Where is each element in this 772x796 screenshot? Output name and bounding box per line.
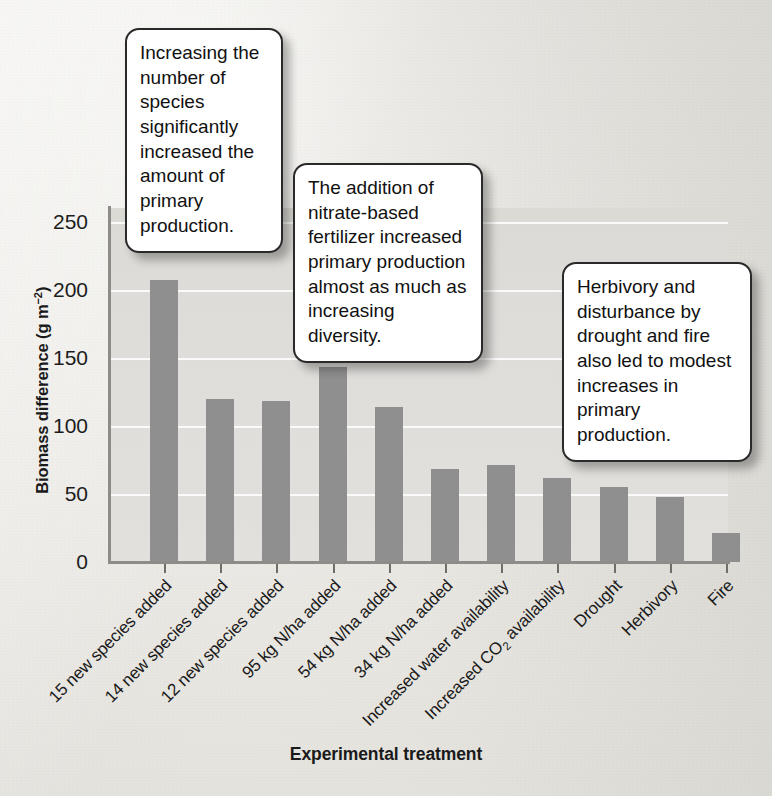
x-tick-label: Herbivory	[618, 576, 682, 640]
y-axis-title-paren: )	[33, 287, 51, 292]
x-tick-label: 95 kg N/ha added	[238, 576, 345, 683]
x-tick-mark	[333, 564, 335, 573]
bar	[656, 497, 684, 562]
x-tick-mark	[726, 564, 728, 573]
y-tick-label: 0	[76, 550, 88, 574]
callout-nitrate-fertilizer: The addition of nitrate-based fertilizer…	[293, 163, 483, 363]
x-axis-line	[108, 561, 730, 564]
x-tick-mark	[389, 564, 391, 573]
x-tick-mark	[276, 564, 278, 573]
callout-text: Herbivory and disturbance by drought and…	[577, 276, 731, 445]
y-axis-title: Biomass difference (g m−2)	[32, 260, 53, 520]
gridline	[110, 494, 728, 496]
x-tick-mark	[614, 564, 616, 573]
callout-species-diversity: Increasing the number of species signifi…	[125, 28, 283, 253]
bar	[543, 478, 571, 562]
y-tick-label: 100	[53, 414, 88, 438]
callout-text: Increasing the number of species signifi…	[140, 42, 259, 236]
x-tick-mark	[445, 564, 447, 573]
y-axis-title-exponent: −2	[32, 292, 44, 304]
y-tick-label: 150	[53, 346, 88, 370]
x-tick-mark	[220, 564, 222, 573]
bar	[319, 367, 347, 562]
x-tick-label: Fire	[704, 576, 738, 610]
callout-herbivory-disturbance: Herbivory and disturbance by drought and…	[562, 262, 752, 462]
figure-canvas: 050100150200250 Biomass difference (g m−…	[0, 0, 772, 796]
bar	[375, 407, 403, 562]
x-tick-mark	[670, 564, 672, 573]
x-tick-label: 54 kg N/ha added	[294, 576, 401, 683]
bar	[262, 401, 290, 562]
x-tick-label: Drought	[570, 576, 626, 632]
y-axis-line	[108, 206, 111, 564]
x-tick-mark	[501, 564, 503, 573]
bar	[206, 399, 234, 562]
y-tick-label: 50	[65, 482, 88, 506]
x-tick-mark	[164, 564, 166, 573]
bar	[712, 533, 740, 562]
bar	[431, 469, 459, 562]
x-tick-label: 34 kg N/ha added	[350, 576, 457, 683]
x-axis-title: Experimental treatment	[0, 744, 772, 765]
callout-text: The addition of nitrate-based fertilizer…	[308, 177, 466, 346]
y-tick-label: 200	[53, 278, 88, 302]
y-axis-title-text: Biomass difference (g m	[33, 304, 51, 493]
x-tick-mark	[557, 564, 559, 573]
y-tick-label: 250	[53, 210, 88, 234]
bar	[487, 465, 515, 562]
bar	[600, 487, 628, 562]
bar	[150, 280, 178, 562]
